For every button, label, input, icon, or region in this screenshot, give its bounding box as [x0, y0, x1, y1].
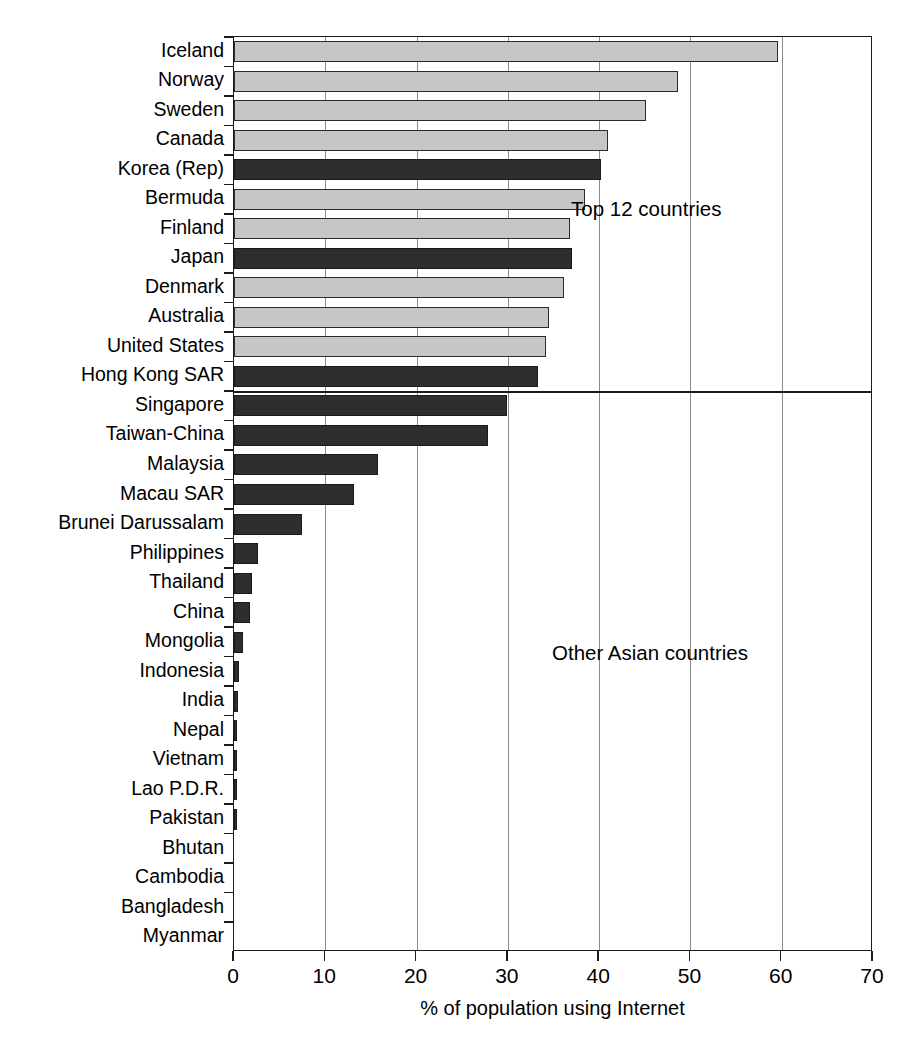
bar-sweden: [234, 100, 646, 121]
x-axis-title: % of population using Internet: [233, 997, 872, 1020]
y-axis-label-nepal: Nepal: [4, 719, 224, 740]
bar-row: [234, 484, 871, 505]
bar-row: [234, 425, 871, 446]
bar-row: [234, 897, 871, 918]
x-tick-20: [415, 951, 417, 961]
y-axis-label-united-states: United States: [4, 335, 224, 356]
y-axis-label-korea-rep: Korea (Rep): [4, 158, 224, 179]
bar-norway: [234, 71, 678, 92]
bar-canada: [234, 130, 608, 151]
bar-finland: [234, 218, 570, 239]
bar-row: [234, 189, 871, 210]
y-axis-label-malaysia: Malaysia: [4, 453, 224, 474]
plot-area: [233, 36, 872, 951]
bar-row: [234, 691, 871, 712]
y-axis-label-canada: Canada: [4, 128, 224, 149]
y-axis-label-bermuda: Bermuda: [4, 187, 224, 208]
y-tick: [224, 892, 233, 894]
y-tick: [224, 361, 233, 363]
bar-row: [234, 366, 871, 387]
y-tick: [224, 125, 233, 127]
y-axis-label-india: India: [4, 689, 224, 710]
y-axis-label-china: China: [4, 601, 224, 622]
x-tick-label-10: 10: [313, 963, 336, 989]
y-axis-label-sweden: Sweden: [4, 99, 224, 120]
x-tick-label-20: 20: [404, 963, 427, 989]
y-axis-label-bhutan: Bhutan: [4, 837, 224, 858]
bar-row: [234, 71, 871, 92]
y-tick: [224, 243, 233, 245]
x-axis-tick-labels: 010203040506070: [233, 963, 872, 993]
y-tick: [224, 803, 233, 805]
bar-row: [234, 838, 871, 859]
y-axis-label-vietnam: Vietnam: [4, 748, 224, 769]
y-axis-label-singapore: Singapore: [4, 394, 224, 415]
bar-row: [234, 868, 871, 889]
x-tick-60: [780, 951, 782, 961]
bar-row: [234, 454, 871, 475]
bar-indonesia: [234, 661, 239, 682]
y-axis-label-cambodia: Cambodia: [4, 866, 224, 887]
y-tick: [224, 390, 233, 392]
bar-australia: [234, 307, 549, 328]
bar-row: [234, 720, 871, 741]
y-tick: [224, 420, 233, 422]
y-tick: [224, 302, 233, 304]
bar-row: [234, 779, 871, 800]
internet-usage-bar-chart: IcelandNorwaySwedenCanadaKorea (Rep)Berm…: [0, 0, 918, 1055]
bar-row: [234, 543, 871, 564]
y-tick: [224, 774, 233, 776]
y-axis-label-pakistan: Pakistan: [4, 807, 224, 828]
x-tick-label-70: 70: [860, 963, 883, 989]
bar-pakistan: [234, 809, 237, 830]
bar-korea-rep: [234, 159, 601, 180]
bar-row: [234, 336, 871, 357]
y-tick: [224, 66, 233, 68]
y-axis-label-taiwan-china: Taiwan-China: [4, 423, 224, 444]
y-tick: [224, 921, 233, 923]
y-axis-label-myanmar: Myanmar: [4, 925, 224, 946]
y-tick: [224, 626, 233, 628]
y-axis-label-iceland: Iceland: [4, 40, 224, 61]
y-tick: [224, 597, 233, 599]
y-tick: [224, 567, 233, 569]
bar-vietnam: [234, 750, 237, 771]
y-axis-label-brunei-darussalam: Brunei Darussalam: [4, 512, 224, 533]
y-tick: [224, 272, 233, 274]
x-tick-label-50: 50: [678, 963, 701, 989]
bar-row: [234, 307, 871, 328]
bar-india: [234, 691, 238, 712]
bar-row: [234, 927, 871, 948]
x-tick-70: [871, 951, 873, 961]
bar-malaysia: [234, 454, 378, 475]
bar-row: [234, 218, 871, 239]
y-tick: [224, 184, 233, 186]
y-axis-label-bangladesh: Bangladesh: [4, 896, 224, 917]
y-tick: [224, 833, 233, 835]
y-tick: [224, 862, 233, 864]
annotation-other-asian-countries: Other Asian countries: [552, 641, 748, 665]
y-tick: [224, 36, 233, 38]
x-tick-0: [232, 951, 234, 961]
bar-japan: [234, 248, 572, 269]
y-axis-label-denmark: Denmark: [4, 276, 224, 297]
y-axis-label-hong-kong-sar: Hong Kong SAR: [4, 364, 224, 385]
y-tick: [224, 715, 233, 717]
bar-denmark: [234, 277, 564, 298]
bar-row: [234, 277, 871, 298]
bar-iceland: [234, 41, 778, 62]
bar-brunei-darussalam: [234, 514, 302, 535]
bar-singapore: [234, 395, 507, 416]
y-axis-label-norway: Norway: [4, 69, 224, 90]
bar-row: [234, 573, 871, 594]
x-tick-label-30: 30: [495, 963, 518, 989]
y-axis-label-philippines: Philippines: [4, 542, 224, 563]
bar-row: [234, 395, 871, 416]
y-axis-label-indonesia: Indonesia: [4, 660, 224, 681]
bar-row: [234, 41, 871, 62]
bar-lao-p-d-r: [234, 779, 237, 800]
bar-united-states: [234, 336, 546, 357]
bar-row: [234, 248, 871, 269]
x-tick-40: [597, 951, 599, 961]
bar-row: [234, 130, 871, 151]
